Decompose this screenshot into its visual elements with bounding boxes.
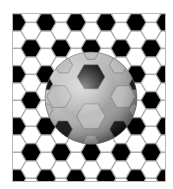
soccer-ball-illustration (0, 0, 173, 189)
